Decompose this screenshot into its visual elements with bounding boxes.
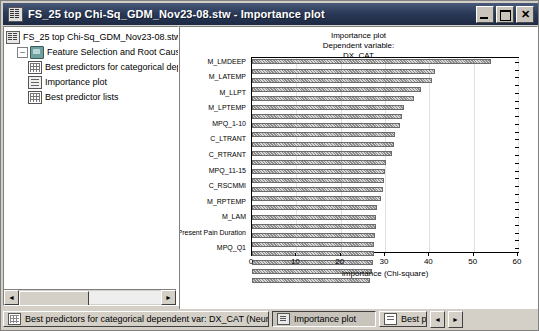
taskbar-button-label: Best p xyxy=(401,314,427,324)
x-tick xyxy=(384,253,385,256)
bar xyxy=(252,78,432,83)
x-tick xyxy=(517,253,518,256)
plot-icon xyxy=(28,76,42,89)
window-controls: ✕ xyxy=(476,6,534,23)
x-axis: 0102030405060 xyxy=(251,253,519,269)
bar xyxy=(252,142,394,147)
y-tick xyxy=(515,248,519,249)
y-tick xyxy=(515,186,519,187)
maximize-button[interactable] xyxy=(496,6,514,23)
tree-item-label: Importance plot xyxy=(45,77,107,87)
y-axis-label: M_LATEMP xyxy=(209,73,246,80)
y-axis-label: C_RTRANT xyxy=(209,151,246,158)
bar-row xyxy=(252,233,518,241)
tree-item-2[interactable]: Best predictors for categorical dep xyxy=(4,60,178,74)
tree-item-4[interactable]: Best predictor lists xyxy=(4,90,178,104)
y-axis-label: C_RSCMMI xyxy=(209,182,246,189)
x-tick-label: 30 xyxy=(380,257,389,266)
bar xyxy=(252,205,377,210)
taskbar-button-0[interactable]: Best predictors for categorical dependen… xyxy=(3,311,269,327)
y-tick xyxy=(515,108,519,109)
scroll-thumb[interactable] xyxy=(19,291,89,306)
bar xyxy=(252,105,404,110)
chart-title: Importance plot xyxy=(180,31,537,41)
bar-row xyxy=(252,114,518,122)
minimize-button[interactable] xyxy=(476,6,494,23)
bar xyxy=(252,123,400,128)
bar xyxy=(252,224,376,229)
tree-item-1[interactable]: –Feature Selection and Root Cause An xyxy=(4,45,178,59)
bar xyxy=(252,96,414,101)
window-title: FS_25 top Chi-Sq_GDM_Nov23-08.stw - Impo… xyxy=(28,8,325,20)
x-axis-title: Importance (Chi-square) xyxy=(251,269,519,278)
tree-item-3[interactable]: Importance plot xyxy=(4,75,178,89)
workspace: FS_25 top Chi-Sq_GDM_Nov23-08.stw–Featur… xyxy=(3,26,538,306)
taskbar-button-1[interactable]: Importance plot xyxy=(272,311,376,327)
scroll-left-icon[interactable]: ◄ xyxy=(4,290,19,305)
y-axis-label: M_LAM xyxy=(222,213,246,220)
spreadsheet-icon xyxy=(28,91,42,104)
importance-plot-panel[interactable]: Importance plot Dependent variable: DX_C… xyxy=(179,26,538,323)
bar xyxy=(252,196,381,201)
tree-item-label: FS_25 top Chi-Sq_GDM_Nov23-08.stw xyxy=(23,32,179,42)
y-tick xyxy=(515,132,519,133)
y-tick xyxy=(515,202,519,203)
scroll-track[interactable] xyxy=(19,291,161,304)
bar-row xyxy=(252,278,518,286)
plot-area xyxy=(251,57,519,253)
taskbar-button-2[interactable]: Best p xyxy=(379,311,427,327)
bar xyxy=(252,132,395,137)
x-tick xyxy=(340,253,341,256)
bar-row xyxy=(252,105,518,113)
workbook-tree-panel[interactable]: FS_25 top Chi-Sq_GDM_Nov23-08.stw–Featur… xyxy=(3,26,179,306)
bar xyxy=(252,59,491,64)
bar xyxy=(252,187,383,192)
bar xyxy=(252,69,435,74)
bar xyxy=(252,242,374,247)
bar-row xyxy=(252,196,518,204)
bar-row xyxy=(252,151,518,159)
workbook-icon xyxy=(8,7,23,22)
y-tick xyxy=(515,93,519,94)
tree-horizontal-scrollbar[interactable]: ◄ ► xyxy=(4,289,176,305)
y-axis-labels: M_LMDEEPM_LATEMPM_LLPTM_LPTEMPMPQ_1-10C_… xyxy=(180,57,249,253)
bar-row xyxy=(252,78,518,86)
bar xyxy=(252,278,370,283)
taskbar-prev-icon[interactable]: ◄ xyxy=(430,311,445,328)
statistica-window: FS_25 top Chi-Sq_GDM_Nov23-08.stw - Impo… xyxy=(0,0,539,331)
y-tick xyxy=(515,101,519,102)
bar-row xyxy=(252,205,518,213)
bar xyxy=(252,114,402,119)
tree-expander-icon[interactable]: – xyxy=(17,47,28,58)
bar-row xyxy=(252,132,518,140)
close-button[interactable]: ✕ xyxy=(516,6,534,23)
y-axis-label: M_RPTEMP xyxy=(207,198,246,205)
chart-subtitle: Dependent variable: xyxy=(180,41,537,51)
bar xyxy=(252,87,421,92)
bar xyxy=(252,178,384,183)
y-axis-label: Present Pain Duration xyxy=(179,229,246,236)
y-tick xyxy=(515,233,519,234)
x-tick-label: 60 xyxy=(513,257,522,266)
y-axis-label: M_LLPT xyxy=(220,89,246,96)
tree-rows: FS_25 top Chi-Sq_GDM_Nov23-08.stw–Featur… xyxy=(4,30,178,104)
x-tick xyxy=(428,253,429,256)
x-tick-label: 10 xyxy=(291,257,300,266)
chart-canvas: Importance plot Dependent variable: DX_C… xyxy=(180,27,537,322)
x-tick-label: 0 xyxy=(249,257,253,266)
taskbar-next-icon[interactable]: ► xyxy=(448,311,463,328)
tree-item-label: Best predictors for categorical dep xyxy=(45,62,179,72)
bar-row xyxy=(252,142,518,150)
scroll-right-icon[interactable]: ► xyxy=(161,290,176,305)
tree-item-0[interactable]: FS_25 top Chi-Sq_GDM_Nov23-08.stw xyxy=(4,30,178,44)
bar-row xyxy=(252,69,518,77)
y-tick xyxy=(515,139,519,140)
y-axis-label: MPQ_Q1 xyxy=(217,244,246,251)
y-tick xyxy=(515,85,519,86)
y-tick xyxy=(515,155,519,156)
y-tick xyxy=(515,217,519,218)
y-tick xyxy=(515,194,519,195)
y-tick xyxy=(515,163,519,164)
x-tick xyxy=(251,253,252,256)
x-tick-label: 20 xyxy=(335,257,344,266)
